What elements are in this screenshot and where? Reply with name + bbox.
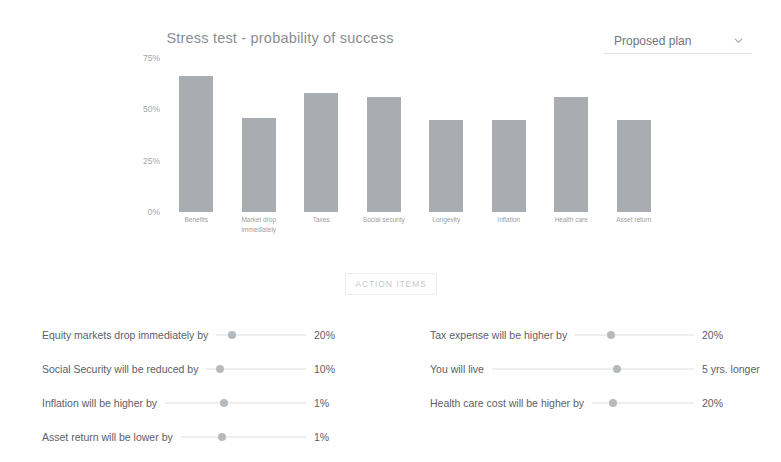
slider-value: 1% — [314, 431, 388, 443]
slider-thumb[interactable] — [613, 365, 621, 373]
slider-value: 5 yrs. longer — [702, 363, 776, 375]
slider-label: Inflation will be higher by — [42, 397, 157, 409]
slider-label: You will live — [430, 363, 484, 375]
slider-column-right: Tax expense will be higher by20%You will… — [430, 318, 776, 420]
slider-thumb[interactable] — [220, 399, 228, 407]
plan-select-dropdown[interactable]: Proposed plan — [604, 28, 752, 54]
slider-thumb[interactable] — [228, 331, 236, 339]
slider-label: Tax expense will be higher by — [430, 329, 567, 341]
slider-track[interactable] — [216, 327, 306, 343]
bar-slot — [165, 58, 228, 212]
slider-row: Inflation will be higher by1% — [42, 386, 388, 420]
x-axis-labels: BenefitsMarket drop immediatelyTaxesSoci… — [165, 215, 665, 235]
y-axis-tick: 0% — [148, 207, 160, 217]
chevron-down-icon — [733, 35, 744, 46]
x-axis-label: Benefits — [165, 215, 228, 235]
stress-test-bar-chart: 75%50%25%0% BenefitsMarket drop immediat… — [0, 58, 781, 248]
y-axis: 75%50%25%0% — [120, 58, 160, 216]
slider-thumb[interactable] — [607, 331, 615, 339]
chart-bar[interactable] — [179, 76, 213, 212]
slider-label: Social Security will be reduced by — [42, 363, 198, 375]
slider-thumb[interactable] — [216, 365, 224, 373]
slider-label: Equity markets drop immediately by — [42, 329, 208, 341]
slider-track-line — [592, 403, 694, 404]
slider-row: Social Security will be reduced by10% — [42, 352, 388, 386]
chart-bar[interactable] — [429, 120, 463, 212]
x-axis-label: Social security — [353, 215, 416, 235]
slider-column-left: Equity markets drop immediately by20%Soc… — [42, 318, 388, 454]
slider-thumb[interactable] — [218, 433, 226, 441]
chart-bar[interactable] — [617, 120, 651, 212]
slider-track-line — [165, 403, 306, 404]
slider-row: Tax expense will be higher by20% — [430, 318, 776, 352]
x-axis-label: Taxes — [290, 215, 353, 235]
chart-bar[interactable] — [492, 120, 526, 212]
y-axis-tick: 75% — [143, 53, 160, 63]
y-axis-tick: 50% — [143, 104, 160, 114]
slider-track[interactable] — [165, 395, 306, 411]
x-axis-label: Longevity — [415, 215, 478, 235]
chart-bar[interactable] — [367, 97, 401, 212]
x-axis-label: Inflation — [478, 215, 541, 235]
bar-slot — [478, 58, 541, 212]
chart-bar[interactable] — [304, 93, 338, 212]
slider-track[interactable] — [206, 361, 306, 377]
slider-label: Asset return will be lower by — [42, 431, 173, 443]
slider-value: 20% — [314, 329, 388, 341]
slider-track[interactable] — [492, 361, 694, 377]
slider-row: You will live5 yrs. longer — [430, 352, 776, 386]
assumption-sliders: Equity markets drop immediately by20%Soc… — [0, 318, 781, 462]
plan-select-value: Proposed plan — [614, 34, 691, 48]
slider-track-line — [181, 437, 306, 438]
page-title: Stress test - probability of success — [0, 30, 560, 46]
y-axis-tick: 25% — [143, 156, 160, 166]
slider-track[interactable] — [592, 395, 694, 411]
stress-test-panel: Stress test - probability of success Pro… — [0, 0, 781, 462]
action-items-button[interactable]: ACTION ITEMS — [345, 273, 437, 295]
slider-row: Health care cost will be higher by20% — [430, 386, 776, 420]
chart-bar[interactable] — [242, 118, 276, 212]
x-axis-label: Asset return — [603, 215, 666, 235]
slider-value: 20% — [702, 397, 776, 409]
chart-bar[interactable] — [554, 97, 588, 212]
bar-slot — [353, 58, 416, 212]
bar-slot — [228, 58, 291, 212]
slider-value: 20% — [702, 329, 776, 341]
bar-slot — [290, 58, 353, 212]
bar-slot — [540, 58, 603, 212]
x-axis-label: Health care — [540, 215, 603, 235]
plot-area — [165, 58, 665, 212]
slider-label: Health care cost will be higher by — [430, 397, 584, 409]
bar-group — [165, 58, 665, 212]
slider-track[interactable] — [575, 327, 694, 343]
slider-thumb[interactable] — [609, 399, 617, 407]
bar-slot — [415, 58, 478, 212]
slider-track-line — [492, 369, 694, 370]
bar-slot — [603, 58, 666, 212]
slider-value: 1% — [314, 397, 388, 409]
slider-value: 10% — [314, 363, 388, 375]
slider-track[interactable] — [181, 429, 306, 445]
x-axis-label: Market drop immediately — [228, 215, 291, 235]
slider-row: Asset return will be lower by1% — [42, 420, 388, 454]
slider-row: Equity markets drop immediately by20% — [42, 318, 388, 352]
slider-track-line — [575, 335, 694, 336]
